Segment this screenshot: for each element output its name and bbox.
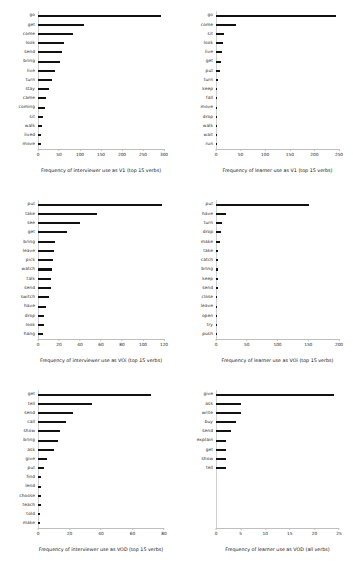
x-axis-tick: 40 <box>77 339 82 347</box>
bar-container <box>216 131 339 140</box>
y-axis-tick-label: take <box>203 249 213 253</box>
tick-label: 0 <box>37 532 40 536</box>
bar-container <box>38 454 164 463</box>
tick-label: 150 <box>97 153 105 157</box>
bar-row: turn <box>216 219 339 228</box>
bar-row: coming <box>38 103 164 112</box>
bar-row: go <box>216 11 339 20</box>
bar-container <box>216 246 339 255</box>
x-axis-tick: 60 <box>130 528 135 536</box>
x-axis-tick: 200 <box>335 339 343 347</box>
bar-row: try <box>216 320 339 329</box>
bar-container <box>216 29 339 38</box>
bar-row: have <box>38 302 164 311</box>
y-axis-tick-label: get <box>206 59 213 63</box>
tick-mark <box>314 149 315 151</box>
y-axis-tick-label: put <box>206 69 213 73</box>
bar-container <box>38 302 164 311</box>
bar-row: put <box>216 200 339 209</box>
y-axis-tick-label: send <box>24 50 35 54</box>
bar <box>38 231 67 233</box>
bar <box>38 213 97 215</box>
bar-container <box>38 464 164 473</box>
chart-caption-4: Frequency of learner use as VOi (top 15 … <box>216 358 339 363</box>
bar-row: walk <box>216 121 339 130</box>
x-axis-tick: 80 <box>161 528 166 536</box>
bar-row: bring <box>38 237 164 246</box>
y-axis-tick-label: show <box>23 429 35 433</box>
bar-container <box>38 293 164 302</box>
bar-row: have <box>216 209 339 218</box>
bar-row <box>216 510 339 519</box>
bar-container <box>38 265 164 274</box>
tick-label: 50 <box>238 153 243 157</box>
bar <box>38 403 92 405</box>
x-axis-tick: 120 <box>160 339 168 347</box>
bar <box>38 449 54 451</box>
y-axis-tick-label: take <box>25 212 35 216</box>
bar-rows-5: gettellsendcallshowbringaskgiveputfindle… <box>38 390 164 528</box>
bar-container <box>38 200 164 209</box>
tick-label: 100 <box>273 343 281 347</box>
y-axis-tick-label: ask <box>27 448 35 452</box>
bar-row: keep <box>216 85 339 94</box>
x-axis-tick: 100 <box>139 339 147 347</box>
x-axis-tick: 15 <box>287 528 292 536</box>
chart-panel-2: gocomesitlooklivegetputturnkeepfallmoved… <box>176 0 353 189</box>
tick-mark <box>69 528 70 530</box>
tick-label: 100 <box>139 343 147 347</box>
bar <box>38 421 66 423</box>
y-axis-tick-label: call <box>27 420 35 424</box>
y-axis-tick-label: wait <box>204 133 213 137</box>
y-axis-tick-label: sit <box>208 32 213 36</box>
bar-row: take <box>38 209 164 218</box>
bar-row: watch <box>38 265 164 274</box>
y-axis-tick-label: stay <box>26 87 36 91</box>
tick-label: 150 <box>286 153 294 157</box>
bar-row: run <box>216 140 339 149</box>
y-axis-tick-label: turn <box>26 78 35 82</box>
bar <box>216 440 226 442</box>
y-axis-tick-label: put <box>206 202 213 206</box>
bar <box>216 250 218 252</box>
chart-caption-6: Frequency of learner use as VOD (all ver… <box>216 547 339 552</box>
y-axis-tick-label: go <box>29 13 35 17</box>
bar-row <box>216 500 339 509</box>
y-axis-tick-label: put <box>28 466 35 470</box>
bar-container <box>38 510 164 519</box>
bar <box>38 522 40 524</box>
bar <box>38 88 49 90</box>
y-axis-tick-label: make <box>23 521 35 525</box>
bar-container <box>216 283 339 292</box>
y-axis-tick-label: move <box>201 105 213 109</box>
bar-container <box>216 11 339 20</box>
tick-label: 300 <box>160 153 168 157</box>
bar <box>216 51 222 53</box>
tick-mark <box>101 528 102 530</box>
bar-container <box>38 418 164 427</box>
tick-mark <box>101 339 102 341</box>
bar-row: ask <box>216 399 339 408</box>
bar <box>38 97 46 99</box>
bar-container <box>38 320 164 329</box>
bar <box>38 42 64 44</box>
plot-area-1: gogetcomelooksendbringliveturnstaycameco… <box>38 11 164 149</box>
bar-container <box>38 112 164 121</box>
bar-container <box>216 399 339 408</box>
bar-container <box>216 237 339 246</box>
bar-container <box>216 302 339 311</box>
bar-row <box>216 519 339 528</box>
bar-rows-1: gogetcomelooksendbringliveturnstaycameco… <box>38 11 164 149</box>
x-axis-tick: 0 <box>37 339 40 347</box>
bar-row: put <box>38 464 164 473</box>
bar-container <box>38 75 164 84</box>
x-axis-5: 020406080 Frequency of interviewer use a… <box>38 528 164 562</box>
bar <box>216 421 236 423</box>
bar <box>216 259 218 261</box>
tick-mark <box>132 528 133 530</box>
bar-container <box>38 219 164 228</box>
bar-row: turn <box>38 75 164 84</box>
bar-container <box>38 330 164 339</box>
bar-container <box>216 320 339 329</box>
bar <box>216 403 241 405</box>
